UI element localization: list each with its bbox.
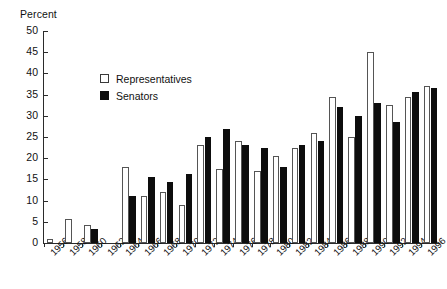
x-axis-tick-mark	[289, 243, 290, 247]
bar-senators-1986	[337, 107, 344, 243]
x-axis-tick-mark	[195, 243, 196, 247]
bar-representatives-1980	[273, 156, 280, 243]
x-axis-tick-mark	[327, 243, 328, 247]
bar-senators-1978	[261, 148, 268, 243]
bar-representatives-1986	[329, 97, 336, 243]
bar-chart: Percent 50454035302520151050 19561958196…	[0, 0, 447, 289]
x-axis-tick-mark	[44, 243, 45, 247]
bar-representatives-1966	[141, 196, 148, 243]
x-axis-tick-mark	[176, 243, 177, 247]
y-axis-tick-label: 0	[18, 236, 38, 249]
y-axis-tick-mark	[43, 73, 48, 74]
bar-senators-1992	[393, 122, 400, 243]
bar-representatives-1984	[311, 133, 318, 243]
bar-representatives-1972	[197, 145, 204, 243]
x-axis-tick-mark	[63, 243, 64, 247]
y-axis-tick-mark	[43, 137, 48, 138]
x-axis-tick-mark	[120, 243, 121, 247]
bar-representatives-1992	[386, 105, 393, 243]
x-axis-tick-mark	[402, 243, 403, 247]
x-axis-tick-mark	[308, 243, 309, 247]
y-axis-tick-mark	[43, 158, 48, 159]
bar-representatives-1968	[160, 192, 167, 243]
bar-senators-1982	[299, 145, 306, 243]
y-axis-tick-label: 45	[18, 45, 38, 58]
y-axis-tick-mark	[43, 95, 48, 96]
bar-senators-1990	[374, 103, 381, 243]
y-axis-tick-mark	[43, 116, 48, 117]
bar-representatives-1974	[216, 169, 223, 243]
y-axis-tick-label: 15	[18, 172, 38, 185]
y-axis-tick-label: 25	[18, 130, 38, 143]
legend-label-senators: Senators	[116, 90, 158, 102]
bar-senators-1988	[355, 116, 362, 243]
bar-senators-1964	[129, 196, 136, 243]
x-axis-tick-mark	[270, 243, 271, 247]
bar-senators-1966	[148, 177, 155, 243]
legend-label-representatives: Representatives	[116, 73, 192, 85]
x-axis-tick-mark	[421, 243, 422, 247]
x-axis-tick-mark	[214, 243, 215, 247]
x-axis-tick-mark	[157, 243, 158, 247]
bar-senators-1976	[242, 145, 249, 243]
bar-representatives-1994	[405, 97, 412, 243]
bar-senators-1984	[318, 141, 325, 243]
bar-senators-1960	[91, 229, 98, 243]
x-axis-tick-mark	[101, 243, 102, 247]
y-axis-tick-label: 35	[18, 88, 38, 101]
bar-senators-1972	[205, 137, 212, 243]
x-axis-tick-mark	[384, 243, 385, 247]
x-axis-tick-mark	[365, 243, 366, 247]
y-axis-tick-label: 50	[18, 24, 38, 37]
y-axis-tick-label: 20	[18, 151, 38, 164]
y-axis-tick-mark	[43, 222, 48, 223]
y-axis-tick-label: 5	[18, 215, 38, 228]
plot-area: 50454035302520151050 1956195819601962196…	[43, 31, 439, 243]
x-axis-tick-mark	[82, 243, 83, 247]
legend-swatch-open-square-icon	[100, 74, 109, 83]
bar-representatives-1978	[254, 171, 261, 243]
bar-senators-1970	[186, 174, 193, 243]
y-axis-tick-label: 40	[18, 66, 38, 79]
legend-item-senators: Senators	[100, 88, 192, 103]
x-axis-tick-mark	[252, 243, 253, 247]
bar-representatives-1982	[292, 148, 299, 243]
bar-representatives-1956	[47, 239, 54, 243]
legend-item-representatives: Representatives	[100, 71, 192, 86]
y-axis-tick-label: 10	[18, 194, 38, 207]
legend-swatch-filled-square-icon	[100, 91, 109, 100]
bar-senators-1994	[412, 92, 419, 243]
bar-representatives-1964	[122, 167, 129, 243]
y-axis-tick-mark	[43, 201, 48, 202]
x-axis-tick-mark	[138, 243, 139, 247]
bar-representatives-1960	[84, 225, 91, 243]
y-axis-tick-mark	[43, 179, 48, 180]
bar-representatives-1988	[348, 137, 355, 243]
x-axis-tick-mark	[233, 243, 234, 247]
bar-senators-1968	[167, 182, 174, 243]
y-axis-tick-mark	[43, 31, 48, 32]
bar-senators-1996	[431, 88, 438, 243]
bar-senators-1980	[280, 167, 287, 243]
y-axis-title: Percent	[20, 8, 57, 20]
chart-legend: Representatives Senators	[100, 71, 192, 105]
bar-representatives-1976	[235, 141, 242, 243]
bar-representatives-1996	[424, 86, 431, 243]
bar-representatives-1990	[367, 52, 374, 243]
y-axis-tick-mark	[43, 52, 48, 53]
bar-representatives-1970	[179, 205, 186, 243]
y-axis-tick-label: 30	[18, 109, 38, 122]
x-axis-tick-mark	[346, 243, 347, 247]
bar-senators-1974	[223, 129, 230, 243]
bar-representatives-1958	[65, 219, 72, 243]
